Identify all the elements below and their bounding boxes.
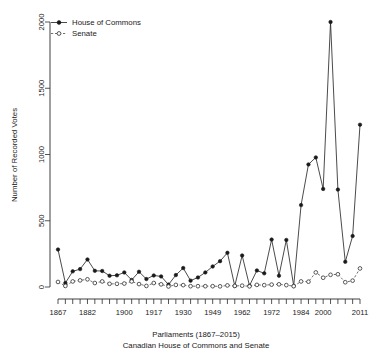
legend-label-senate: Senate	[72, 29, 97, 38]
x-tick-label: 1962	[234, 308, 251, 317]
data-point-senate	[122, 282, 126, 286]
data-point-senate	[270, 283, 274, 287]
data-point-senate	[255, 283, 259, 287]
data-point-senate	[78, 279, 82, 283]
data-point-senate	[299, 280, 303, 284]
data-point-house-of-commons	[240, 254, 244, 258]
x-tick-label: 2011	[352, 308, 368, 317]
data-point-house-of-commons	[108, 274, 112, 278]
data-point-house-of-commons	[299, 203, 303, 207]
data-point-senate	[343, 280, 347, 284]
x-tick-label: 1972	[263, 308, 280, 317]
data-point-house-of-commons	[226, 251, 230, 255]
y-tick-label: 2000	[37, 14, 46, 31]
data-point-senate	[152, 281, 156, 285]
data-point-senate	[307, 280, 311, 284]
data-point-senate	[218, 284, 222, 288]
data-point-senate	[277, 283, 281, 287]
x-tick-label: 1917	[145, 308, 162, 317]
data-point-house-of-commons	[321, 187, 325, 191]
data-point-house-of-commons	[307, 163, 311, 167]
data-point-senate	[167, 285, 171, 289]
data-point-house-of-commons	[344, 260, 348, 264]
data-point-house-of-commons	[358, 123, 362, 127]
data-point-house-of-commons	[56, 248, 60, 252]
x-tick-label: 1984	[293, 308, 310, 317]
data-point-senate	[56, 280, 60, 284]
data-point-senate	[115, 282, 119, 286]
data-point-senate	[130, 280, 134, 284]
x-axis-caption-line2: Canadian House of Commons and Senate	[123, 341, 270, 350]
data-point-house-of-commons	[71, 270, 75, 274]
data-point-house-of-commons	[93, 269, 97, 273]
data-point-house-of-commons	[152, 274, 156, 278]
data-point-senate	[108, 282, 112, 286]
data-point-senate	[292, 284, 296, 288]
y-axis-title: Number of Recorded Votes	[10, 108, 19, 202]
data-point-senate	[351, 279, 355, 283]
data-point-house-of-commons	[329, 20, 333, 24]
data-point-house-of-commons	[115, 274, 119, 278]
data-point-house-of-commons	[211, 265, 215, 269]
data-point-senate	[145, 284, 149, 288]
y-tick-label: 500	[37, 214, 46, 227]
data-point-senate	[203, 284, 207, 288]
data-point-senate	[240, 284, 244, 288]
data-point-house-of-commons	[181, 266, 185, 270]
x-tick-label: 1882	[79, 308, 96, 317]
legend-label-commons: House of Commons	[72, 18, 141, 27]
data-point-senate	[64, 284, 68, 288]
y-tick-label: 1000	[37, 146, 46, 163]
data-point-senate	[233, 284, 237, 288]
data-point-house-of-commons	[189, 279, 193, 283]
votes-line-chart: 0500100015002000 Number of Recorded Vote…	[0, 0, 374, 362]
data-point-house-of-commons	[86, 258, 90, 262]
data-point-house-of-commons	[285, 238, 289, 242]
data-point-senate	[321, 276, 325, 280]
legend-marker-commons	[57, 21, 61, 25]
data-point-house-of-commons	[123, 271, 127, 275]
data-point-house-of-commons	[145, 277, 149, 281]
data-point-senate	[358, 267, 362, 271]
data-point-senate	[336, 272, 340, 276]
data-point-senate	[226, 284, 230, 288]
data-point-senate	[314, 271, 318, 275]
data-point-house-of-commons	[255, 269, 259, 273]
data-point-senate	[100, 280, 104, 284]
data-point-senate	[86, 277, 90, 281]
x-tick-label: 1867	[50, 308, 67, 317]
x-tick-label: 1949	[204, 308, 221, 317]
y-tick-label: 0	[37, 285, 46, 289]
data-point-house-of-commons	[314, 156, 318, 160]
x-axis-caption-line1: Parliaments (1867–2015)	[152, 330, 240, 339]
data-point-house-of-commons	[262, 272, 266, 276]
x-tick-label: 2000	[315, 308, 332, 317]
x-tick-label: 1900	[116, 308, 133, 317]
data-point-house-of-commons	[159, 275, 163, 279]
data-point-senate	[196, 284, 200, 288]
data-point-senate	[284, 283, 288, 287]
data-point-house-of-commons	[78, 267, 82, 271]
data-point-senate	[71, 280, 75, 284]
data-point-senate	[137, 282, 141, 286]
data-point-house-of-commons	[277, 274, 281, 278]
data-point-senate	[93, 281, 97, 285]
data-point-house-of-commons	[174, 273, 178, 277]
data-point-senate	[174, 283, 178, 287]
legend-marker-senate	[57, 32, 61, 36]
y-tick-label: 1500	[37, 80, 46, 97]
data-point-house-of-commons	[336, 188, 340, 192]
data-point-senate	[159, 283, 163, 287]
data-point-house-of-commons	[218, 259, 222, 263]
data-point-house-of-commons	[351, 234, 355, 238]
data-point-house-of-commons	[137, 270, 141, 274]
data-point-senate	[211, 284, 215, 288]
data-point-senate	[189, 284, 193, 288]
data-point-senate	[248, 284, 252, 288]
data-point-house-of-commons	[204, 271, 208, 275]
data-point-house-of-commons	[270, 238, 274, 242]
x-tick-label: 1930	[175, 308, 192, 317]
data-point-senate	[329, 273, 333, 277]
data-point-house-of-commons	[196, 276, 200, 280]
data-point-senate	[262, 283, 266, 287]
